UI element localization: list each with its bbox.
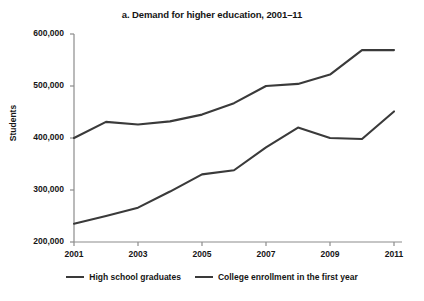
legend-item: College enrollment in the first year [195, 272, 358, 282]
legend-item: High school graduates [66, 272, 181, 282]
x-axis-tick-label: 2007 [246, 249, 286, 259]
x-axis-tick-label: 2001 [54, 249, 94, 259]
x-axis-tick-label: 2003 [118, 249, 158, 259]
x-axis-tick-label: 2005 [182, 249, 222, 259]
series-line-2 [74, 111, 394, 223]
legend-swatch-icon [195, 276, 213, 278]
y-axis-tick-label: 300,000 [6, 184, 64, 194]
chart-container: a. Demand for higher education, 2001–11 … [0, 0, 424, 301]
series-line-1 [74, 50, 394, 138]
x-axis-tick-label: 2011 [374, 249, 414, 259]
chart-legend: High school graduatesCollege enrollment … [0, 272, 424, 282]
y-axis-tick-label: 200,000 [6, 236, 64, 246]
x-axis-tick-label: 2009 [310, 249, 350, 259]
y-axis-tick-label: 600,000 [6, 28, 64, 38]
y-axis-tick-label: 400,000 [6, 132, 64, 142]
legend-swatch-icon [66, 276, 84, 278]
legend-label: College enrollment in the first year [218, 272, 358, 282]
legend-label: High school graduates [89, 272, 181, 282]
y-axis-tick-label: 500,000 [6, 80, 64, 90]
